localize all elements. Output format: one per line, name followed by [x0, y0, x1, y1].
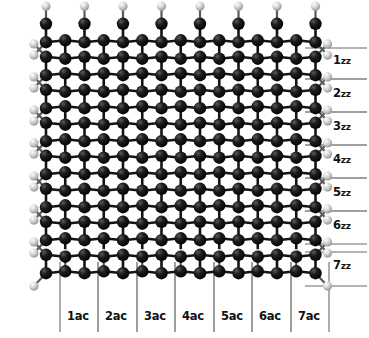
carbon-atom — [290, 86, 302, 98]
zigzag-unit-suffix: zz — [341, 221, 351, 231]
carbon-atom — [155, 150, 167, 162]
zigzag-index-number: 2 — [333, 86, 341, 100]
hydrogen-atom — [323, 83, 332, 92]
hydrogen-atom — [29, 138, 38, 147]
carbon-atom — [59, 199, 71, 211]
carbon-atom — [117, 216, 129, 228]
carbon-atom — [213, 218, 225, 230]
carbon-atom — [136, 53, 148, 65]
carbon-atom — [213, 185, 225, 197]
zigzag-index-label-3: 3zz — [333, 119, 351, 133]
carbon-atom — [136, 232, 148, 244]
carbon-atom — [271, 234, 283, 246]
carbon-atom — [59, 251, 71, 263]
armchair-index-label-3: 3ac — [144, 309, 166, 323]
carbon-atom — [213, 119, 225, 131]
carbon-atom — [271, 150, 283, 162]
hydrogen-atom — [323, 204, 332, 213]
carbon-atom — [194, 117, 206, 129]
carbon-atom — [175, 86, 187, 98]
carbon-atom — [117, 234, 129, 246]
hydrogen-atom — [29, 281, 38, 290]
carbon-atom — [194, 84, 206, 96]
carbon-atom — [290, 100, 302, 112]
carbon-atom — [232, 51, 244, 63]
carbon-atom — [155, 249, 167, 261]
zigzag-unit-suffix: zz — [341, 89, 351, 99]
carbon-atom — [271, 18, 283, 30]
carbon-atom — [232, 150, 244, 162]
zigzag-index-number: 5 — [333, 185, 341, 199]
carbon-atom — [252, 119, 264, 131]
zigzag-unit-suffix: zz — [341, 56, 351, 66]
carbon-atom — [155, 36, 167, 48]
carbon-atom — [213, 86, 225, 98]
carbon-atom — [290, 67, 302, 79]
carbon-atom — [232, 135, 244, 147]
armchair-index-label-2: 2ac — [105, 309, 127, 323]
carbon-atom — [175, 133, 187, 145]
carbon-atom — [155, 216, 167, 228]
carbon-atom — [155, 234, 167, 246]
carbon-atom — [290, 133, 302, 145]
hydrogen-atom — [118, 2, 127, 11]
carbon-atom — [155, 135, 167, 147]
carbon-atom — [194, 216, 206, 228]
carbon-atom — [117, 84, 129, 96]
carbon-atom — [252, 265, 264, 277]
zigzag-unit-suffix: zz — [341, 155, 351, 165]
hydrogen-atom — [323, 105, 332, 114]
carbon-atom — [213, 152, 225, 164]
carbon-atom — [232, 249, 244, 261]
hydrogen-atom — [29, 182, 38, 191]
carbon-atom — [175, 218, 187, 230]
carbon-atom — [40, 135, 52, 147]
zigzag-unit-suffix: zz — [341, 122, 351, 132]
carbon-atom — [309, 168, 321, 180]
carbon-atom — [309, 135, 321, 147]
carbon-atom — [136, 67, 148, 79]
carbon-atom — [40, 150, 52, 162]
carbon-atom — [59, 232, 71, 244]
hydrogen-atom — [323, 50, 332, 59]
carbon-atom — [194, 150, 206, 162]
carbon-atom — [117, 117, 129, 129]
hydrogen-atom — [29, 39, 38, 48]
zigzag-index-label-7: 7zz — [333, 258, 351, 272]
carbon-atom — [271, 117, 283, 129]
hydrogen-atom — [29, 171, 38, 180]
carbon-atom — [98, 218, 110, 230]
hydrogen-atom — [29, 149, 38, 158]
carbon-atom — [309, 183, 321, 195]
armchair-index-label-7: 7ac — [298, 309, 320, 323]
carbon-atom — [59, 218, 71, 230]
carbon-atom — [194, 69, 206, 81]
hydrogen-atom — [272, 2, 281, 11]
carbon-atom — [252, 152, 264, 164]
carbon-atom — [78, 102, 90, 114]
carbon-atom — [59, 67, 71, 79]
carbon-atom — [232, 18, 244, 30]
carbon-atom — [175, 119, 187, 131]
carbon-atom — [117, 102, 129, 114]
carbon-atom — [213, 133, 225, 145]
carbon-atom — [194, 36, 206, 48]
carbon-atom — [59, 86, 71, 98]
carbon-atom — [252, 232, 264, 244]
carbon-atom — [271, 168, 283, 180]
carbon-atom — [290, 265, 302, 277]
carbon-atom — [136, 251, 148, 263]
hydrogen-atom — [29, 248, 38, 257]
carbon-atom — [98, 185, 110, 197]
carbon-atom — [98, 265, 110, 277]
carbon-atom — [40, 102, 52, 114]
carbon-atom — [194, 267, 206, 279]
hydrogen-atom — [195, 2, 204, 11]
carbon-atom — [271, 69, 283, 81]
carbon-atom — [271, 201, 283, 213]
carbon-atom — [78, 36, 90, 48]
carbon-atom — [155, 102, 167, 114]
carbon-atom — [40, 249, 52, 261]
zigzag-index-label-5: 5zz — [333, 185, 351, 199]
carbon-atom — [136, 218, 148, 230]
